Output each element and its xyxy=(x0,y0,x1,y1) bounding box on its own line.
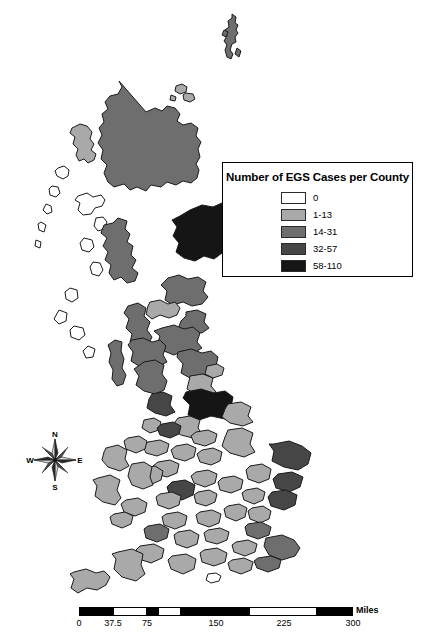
region-west-sussex xyxy=(228,558,253,574)
legend-label-1: 1-13 xyxy=(313,210,332,220)
scalebar-tick-37_5: 37.5 xyxy=(104,618,122,628)
scalebar-segment-0 xyxy=(79,607,113,616)
region-dorset xyxy=(168,554,196,574)
legend-swatch-0 xyxy=(281,192,306,204)
scalebar-segment-3 xyxy=(158,607,181,616)
map-regions xyxy=(35,14,311,593)
legend-label-0: 0 xyxy=(313,193,318,203)
compass-rose-icon: N E S W xyxy=(22,427,88,493)
compass-label-east: E xyxy=(77,456,83,465)
region-powys xyxy=(128,462,153,489)
scalebar-units-label: Miles xyxy=(356,605,379,615)
region-clwyd xyxy=(124,436,147,453)
region-orkney xyxy=(170,84,195,102)
scalebar-segment-2 xyxy=(147,607,158,616)
scalebar-tick-75: 75 xyxy=(142,618,152,628)
region-isle-of-wight xyxy=(206,573,221,583)
region-northamptonshire xyxy=(218,476,243,493)
map-scalebar: 0 37.5 75 150 225 300 xyxy=(79,607,353,637)
region-south-glamorgan xyxy=(110,512,133,528)
region-essex xyxy=(268,490,297,510)
region-cumbria xyxy=(134,360,167,394)
region-kintyre xyxy=(108,340,126,386)
region-wiltshire xyxy=(174,530,199,548)
region-suffolk xyxy=(273,472,303,492)
region-norfolk xyxy=(269,441,311,470)
region-shetland xyxy=(222,14,241,59)
legend-swatch-1 xyxy=(281,209,306,221)
compass-label-west: W xyxy=(26,456,34,465)
legend-swatch-2 xyxy=(281,226,306,238)
region-central-scotland xyxy=(146,300,180,319)
scalebar-tick-150: 150 xyxy=(208,618,223,628)
region-greater-london xyxy=(245,522,271,539)
region-surrey xyxy=(232,540,257,556)
scalebar-segment-5 xyxy=(249,607,317,616)
region-western-isles xyxy=(35,124,96,248)
region-gwynedd xyxy=(102,445,129,471)
region-oxfordshire xyxy=(196,510,221,527)
uk-choropleth-map xyxy=(0,0,439,642)
legend-entry-0: 0 xyxy=(281,190,342,205)
legend-entry-2: 14-31 xyxy=(281,224,342,239)
region-highland-west xyxy=(101,218,138,283)
region-hampshire xyxy=(200,548,227,566)
scalebar-tick-225: 225 xyxy=(276,618,291,628)
compass-label-north: N xyxy=(52,430,58,439)
region-south-yorkshire xyxy=(191,430,217,446)
legend-swatch-4 xyxy=(281,260,306,272)
region-east-sussex xyxy=(254,556,281,572)
region-hertfordshire xyxy=(248,506,271,523)
region-buckinghamshire xyxy=(224,504,247,521)
compass-label-south: S xyxy=(52,483,58,492)
legend-swatch-3 xyxy=(281,243,306,255)
legend-label-2: 14-31 xyxy=(313,227,337,237)
region-tayside xyxy=(161,275,208,306)
region-bedfordshire xyxy=(242,488,265,504)
region-nottinghamshire xyxy=(197,448,222,465)
region-cambridgeshire xyxy=(246,464,271,483)
legend-entry-3: 32-57 xyxy=(281,241,342,256)
legend-entry-1: 1-13 xyxy=(281,207,342,222)
region-gloucestershire xyxy=(162,512,187,529)
region-hereford-worcester xyxy=(156,492,181,509)
region-berkshire xyxy=(204,528,229,544)
map-legend: Number of EGS Cases per County 0 1-13 14… xyxy=(222,162,413,277)
scalebar-segment-1 xyxy=(113,607,147,616)
region-humberside xyxy=(222,402,253,426)
legend-title: Number of EGS Cases per County xyxy=(223,171,412,183)
region-devon xyxy=(112,549,145,581)
region-lancashire xyxy=(147,392,175,416)
region-dyfed xyxy=(93,475,121,505)
region-cornwall xyxy=(70,569,110,593)
region-inner-hebrides xyxy=(54,193,107,358)
legend-label-4: 58-110 xyxy=(313,261,342,271)
region-lincolnshire xyxy=(222,428,255,457)
region-derbyshire xyxy=(171,444,196,461)
scalebar-segment-6 xyxy=(317,607,353,616)
region-warwickshire xyxy=(194,490,217,506)
scalebar-tick-0: 0 xyxy=(76,618,81,628)
legend-entries: 0 1-13 14-31 32-57 58-110 xyxy=(281,190,342,275)
map-page: Number of EGS Cases per County 0 1-13 14… xyxy=(0,0,439,642)
region-avon xyxy=(144,524,169,542)
scalebar-tick-300: 300 xyxy=(345,618,360,628)
legend-label-3: 32-57 xyxy=(313,244,337,254)
legend-entry-4: 58-110 xyxy=(281,258,342,273)
scalebar-segment-4 xyxy=(181,607,249,616)
region-tyne-wear xyxy=(205,364,224,378)
